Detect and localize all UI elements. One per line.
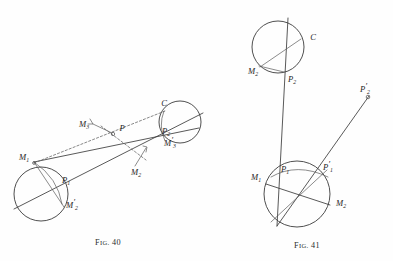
fig41-label-p1-prime: P′1	[322, 159, 333, 173]
fig40-label-c: C	[161, 98, 167, 108]
fig40-dashed-m1-to-c	[34, 111, 165, 163]
fig40-label-p: P	[118, 123, 125, 133]
fig40-main-axis-line	[14, 113, 203, 209]
fig40-label-m1: M1	[18, 152, 29, 163]
fig40-left-chord-m1-m2prime	[34, 162, 64, 207]
fig41-label-p2-prime: P′2	[359, 81, 370, 95]
fig40-label-m2-prime-left: M′2	[65, 197, 78, 211]
figures-svg: M1 P1 M′2 M3 P M2 C P2 M′3 FIG. 40	[0, 0, 393, 261]
fig41-label-c: C	[310, 32, 316, 42]
fig41-label-p1: P1	[280, 164, 289, 175]
fig41-top-circle	[252, 21, 304, 73]
fig40-label-p1: P1	[61, 175, 70, 186]
fig40-label-m3: M3	[78, 119, 89, 130]
fig40-caption: FIG. 40	[95, 238, 121, 247]
fig41-caption: FIG. 41	[294, 241, 320, 250]
figure-plate: M1 P1 M′2 M3 P M2 C P2 M′3 FIG. 40	[0, 0, 393, 261]
fig41-top-chord-m2-c	[260, 39, 301, 67]
figure-41-group: C M2 P2 P′2 M1 P1 P′1 M2 FIG. 41	[247, 18, 370, 250]
fig41-bottom-chord-m1-m2	[266, 184, 330, 205]
fig41-diagonal-line-p1prime-p2prime	[277, 96, 369, 226]
fig41-label-m1: M1	[250, 172, 261, 183]
fig41-label-m2-bottom: M2	[335, 198, 346, 209]
fig41-top-chord-lower	[259, 66, 284, 72]
fig40-label-m2: M2	[130, 167, 141, 178]
fig40-label-p2: P2	[161, 126, 170, 137]
fig41-label-m2-top: M2	[247, 66, 258, 77]
figure-40-group: M1 P1 M′2 M3 P M2 C P2 M′3 FIG. 40	[14, 98, 203, 247]
fig41-label-p2: P2	[287, 74, 296, 85]
fig40-pointer-m3-to-p	[93, 124, 112, 133]
fig40-pointer-m2	[135, 148, 146, 166]
